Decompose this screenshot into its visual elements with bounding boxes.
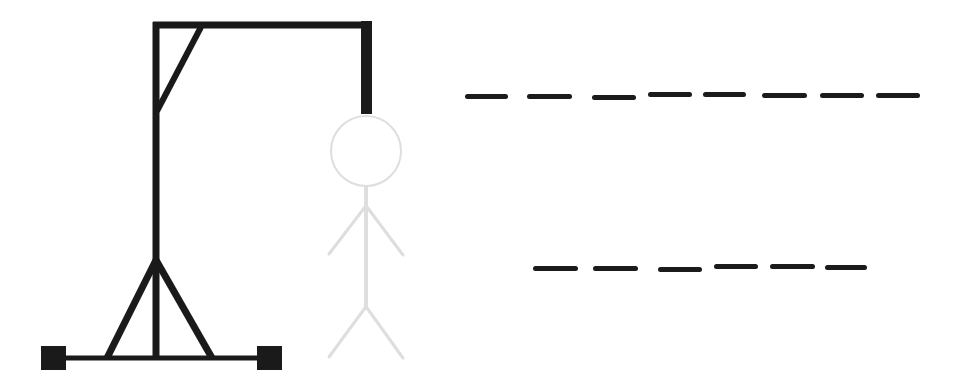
gallows — [41, 21, 372, 370]
figure-right-arm — [367, 207, 403, 255]
figure-head — [331, 116, 401, 186]
letter-blank — [876, 93, 920, 98]
letter-blank — [825, 265, 867, 270]
gallows-left-leg — [107, 260, 156, 358]
figure-left-leg — [329, 308, 365, 357]
letter-blank — [714, 264, 758, 269]
gallows-brace — [157, 27, 201, 111]
hangman-stage — [0, 0, 969, 378]
letter-blank — [770, 264, 815, 269]
letter-blank — [593, 266, 638, 271]
letter-blank — [658, 267, 702, 272]
letter-blank — [703, 92, 746, 97]
letter-blank — [648, 92, 692, 97]
gallows-right-leg — [156, 260, 212, 358]
gallows-left-foot — [41, 346, 66, 370]
gallows-rope — [361, 21, 372, 114]
figure-left-arm — [329, 207, 365, 254]
letter-blank — [762, 93, 807, 98]
letter-blank — [527, 94, 572, 99]
letter-blank — [820, 93, 864, 98]
letter-blank — [465, 94, 508, 99]
gallows-right-foot — [257, 346, 282, 370]
letter-blank — [533, 266, 578, 271]
figure-right-leg — [367, 308, 403, 358]
letter-blank — [592, 95, 636, 100]
hanged-figure — [329, 116, 403, 358]
